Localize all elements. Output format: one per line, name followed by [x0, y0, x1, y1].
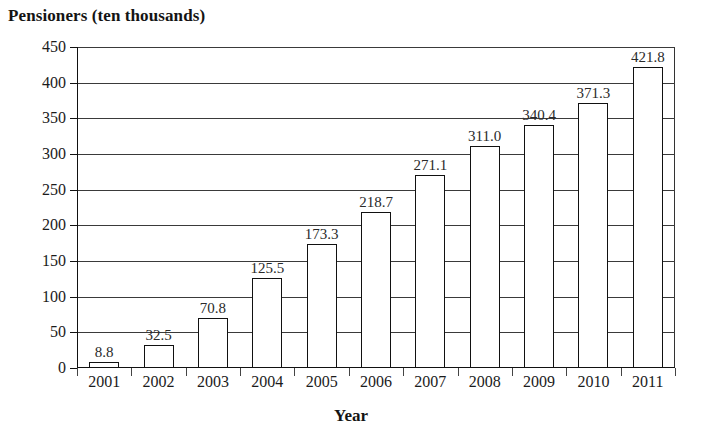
bar-value-label: 70.8	[200, 301, 226, 316]
y-axis-tick	[70, 332, 78, 333]
bar: 32.5	[144, 345, 174, 368]
bar-value-label: 340.4	[522, 108, 556, 123]
x-axis-tick-label: 2008	[469, 374, 501, 390]
plot-right-border	[674, 47, 675, 368]
x-axis-tick-label: 2009	[523, 374, 555, 390]
x-axis-tick	[566, 368, 567, 376]
bar-value-label: 421.8	[631, 50, 665, 65]
bar: 271.1	[415, 175, 445, 368]
bar-value-label: 32.5	[145, 328, 171, 343]
x-axis-tick	[512, 368, 513, 376]
x-axis-tick-label: 2002	[143, 374, 175, 390]
x-axis-tick-label: 2010	[577, 374, 609, 390]
bar: 371.3	[578, 103, 608, 368]
y-axis-tick-label: 450	[42, 39, 66, 55]
x-axis-tick	[131, 368, 132, 376]
y-axis-tick	[70, 190, 78, 191]
y-axis-tick-label: 350	[42, 110, 66, 126]
bar: 70.8	[198, 318, 228, 369]
y-axis-tick	[70, 47, 78, 48]
x-axis-tick	[186, 368, 187, 376]
y-axis-tick	[70, 154, 78, 155]
x-axis-tick-label: 2005	[306, 374, 338, 390]
x-axis-tick-label: 2003	[197, 374, 229, 390]
x-axis-tick-label: 2001	[88, 374, 120, 390]
y-axis-line	[77, 47, 78, 368]
x-axis-tick-label: 2004	[251, 374, 283, 390]
bar: 311.0	[470, 146, 500, 368]
bar: 173.3	[307, 244, 337, 368]
bar: 8.8	[89, 362, 119, 368]
y-axis-tick-label: 250	[42, 182, 66, 198]
x-axis-tick	[240, 368, 241, 376]
x-axis-tick	[349, 368, 350, 376]
y-axis-tick	[70, 118, 78, 119]
x-axis-title: Year	[0, 406, 702, 426]
x-axis-tick	[403, 368, 404, 376]
bar-value-label: 8.8	[95, 345, 114, 360]
bar-value-label: 371.3	[577, 86, 611, 101]
y-axis-tick	[70, 261, 78, 262]
y-axis-tick	[70, 297, 78, 298]
y-axis-tick-label: 300	[42, 146, 66, 162]
plot-area: 050100150200250300350400450 8.832.570.81…	[77, 47, 675, 368]
x-axis-tick-label: 2011	[632, 374, 663, 390]
y-axis-tick-label: 400	[42, 75, 66, 91]
x-axis-tick-label: 2007	[414, 374, 446, 390]
x-axis-tick	[458, 368, 459, 376]
y-axis-tick-label: 150	[42, 253, 66, 269]
y-axis-tick-label: 50	[50, 324, 66, 340]
bar: 340.4	[524, 125, 554, 368]
gridline	[77, 47, 675, 48]
chart-title: Pensioners (ten thousands)	[8, 6, 205, 26]
x-axis-tick	[77, 368, 78, 376]
y-axis-tick-label: 100	[42, 289, 66, 305]
x-axis-tick	[621, 368, 622, 376]
y-axis-tick-label: 0	[58, 360, 66, 376]
bar-value-label: 218.7	[359, 195, 393, 210]
bar-value-label: 311.0	[468, 129, 501, 144]
gridline	[77, 83, 675, 84]
bar: 421.8	[633, 67, 663, 368]
bar: 125.5	[252, 278, 282, 368]
y-axis-tick	[70, 225, 78, 226]
y-axis-tick-label: 200	[42, 217, 66, 233]
x-axis-tick	[294, 368, 295, 376]
x-axis-tick	[675, 368, 676, 376]
y-axis-tick	[70, 83, 78, 84]
bar-value-label: 125.5	[250, 261, 284, 276]
bar-value-label: 173.3	[305, 227, 339, 242]
bar-value-label: 271.1	[413, 158, 447, 173]
bar: 218.7	[361, 212, 391, 368]
x-axis-tick-label: 2006	[360, 374, 392, 390]
